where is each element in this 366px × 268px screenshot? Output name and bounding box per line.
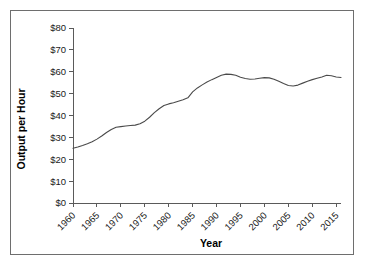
y-tick-label: $20 [50,154,66,165]
y-tick-label: $10 [50,176,66,187]
y-tick-label: $50 [50,88,66,99]
axis-titles: Output per Hour Year [15,88,222,249]
y-tick-label: $0 [55,197,66,208]
x-tick-label: 2005 [270,210,293,233]
y-tick-label: $30 [50,132,66,143]
x-tick-label: 1985 [174,210,197,233]
y-axis-title: Output per Hour [15,88,27,169]
x-tick-label: 2000 [246,210,269,233]
x-tick-label: 1990 [198,210,221,233]
data-series-line [73,74,341,148]
chart-frame: $0$10$20$30$40$50$60$70$80 1960196519701… [10,10,354,255]
x-tick-label: 2010 [294,210,317,233]
figure-root: $0$10$20$30$40$50$60$70$80 1960196519701… [0,0,366,268]
y-tick-label: $70 [50,44,66,55]
x-tick-label: 1970 [103,210,126,233]
y-tick-label: $60 [50,66,66,77]
output-per-hour-line-chart: $0$10$20$30$40$50$60$70$80 1960196519701… [11,11,353,254]
x-tick-label: 2015 [318,210,341,233]
x-tick-label: 1960 [55,210,78,233]
x-axis-title: Year [200,237,222,249]
y-tick-label: $80 [50,22,66,33]
x-tick-label: 1995 [222,210,245,233]
y-tick-label: $40 [50,110,66,121]
x-tick-label: 1980 [150,210,173,233]
x-tick-label: 1965 [79,210,102,233]
x-tick-label: 1975 [126,210,149,233]
series-line-path [73,74,341,148]
y-axis: $0$10$20$30$40$50$60$70$80 [50,22,73,208]
x-axis: 1960196519701975198019851990199520002005… [55,203,341,232]
